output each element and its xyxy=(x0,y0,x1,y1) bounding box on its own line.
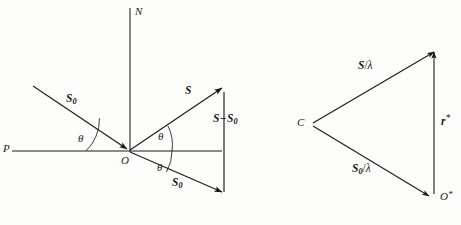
scattered-over-lambda-arrow xyxy=(313,52,434,123)
incident-over-lambda-label: S0/λ xyxy=(352,163,371,176)
transmitted-beam-label: S0 xyxy=(172,177,183,190)
difference-vector-label: S−S0 xyxy=(213,113,238,126)
reciprocal-vector-label: r* xyxy=(441,114,450,127)
difference-vector-label-subscript: 0 xyxy=(233,117,237,126)
origin-label: O xyxy=(121,155,129,166)
normal-axis-label: N xyxy=(135,6,142,17)
plane-label: P xyxy=(3,143,10,154)
reciprocal-origin-label-star: * xyxy=(448,189,453,199)
angle-label-incident: θ xyxy=(78,133,83,144)
incident-over-lambda-denominator: λ xyxy=(366,162,371,174)
incident-beam-label: S0 xyxy=(66,93,77,106)
reciprocal-origin-label: O* xyxy=(440,190,452,202)
scattered-beam-label: S xyxy=(185,85,191,97)
reciprocal-vector-label-star: * xyxy=(445,113,450,123)
ewald-center-label: C xyxy=(297,117,304,128)
scattered-beam-arrow xyxy=(130,88,222,150)
incident-over-lambda-arrow xyxy=(313,126,429,196)
angle-arc-scattered xyxy=(168,126,172,151)
difference-vector-label-minus: − xyxy=(219,112,227,124)
angle-label-transmitted: θ xyxy=(157,162,162,173)
incident-beam-label-subscript: 0 xyxy=(72,97,76,106)
scattered-over-lambda-denominator: λ xyxy=(368,59,373,71)
transmitted-beam-label-subscript: 0 xyxy=(178,181,182,190)
scattered-over-lambda-label: S/λ xyxy=(358,60,373,72)
figure-canvas: N P O S0 S S−S0 S0 θ θ θ C O* S/λ S0/λ r… xyxy=(0,0,461,225)
angle-label-scattered: θ xyxy=(158,131,163,142)
reciprocal-origin-label-main: O xyxy=(440,190,448,202)
